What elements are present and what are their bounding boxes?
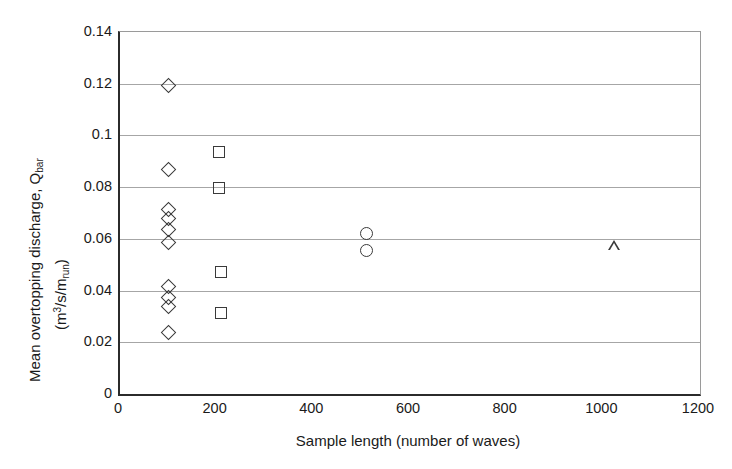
y-axis-title-main: Mean overtopping discharge, Qbar: [26, 158, 45, 382]
y-tick-label: 0.1: [60, 127, 112, 141]
x-tick-label: 800: [475, 400, 535, 416]
x-axis-title: Sample length (number of waves): [118, 432, 698, 449]
y-tick-label: 0.04: [60, 283, 112, 297]
x-tick-label: 0: [88, 400, 148, 416]
x-tick-label: 1000: [571, 400, 631, 416]
y-tick-label: 0.06: [60, 231, 112, 245]
y-tick-label: 0.14: [60, 24, 112, 38]
y-tick-label: 0: [60, 386, 112, 400]
y-axis-title: Mean overtopping discharge, Qbar (m3/s/m…: [0, 0, 60, 400]
x-tick-label: 400: [281, 400, 341, 416]
y-axis-tick-labels: 00.020.040.060.080.10.120.14: [56, 0, 112, 400]
y-tick-label: 0.02: [60, 334, 112, 348]
y-axis-title-text: Mean overtopping discharge, Q: [26, 173, 43, 382]
y-tick-label: 0.12: [60, 76, 112, 90]
y-tick-label: 0.08: [60, 179, 112, 193]
x-axis-tick-labels: 020040060080010001200: [118, 0, 698, 400]
x-tick-label: 1200: [668, 400, 728, 416]
x-tick-label: 200: [185, 400, 245, 416]
x-tick-label: 600: [378, 400, 438, 416]
y-axis-title-subscript: bar: [34, 158, 45, 172]
chart-figure: Mean overtopping discharge, Qbar (m3/s/m…: [0, 0, 732, 469]
